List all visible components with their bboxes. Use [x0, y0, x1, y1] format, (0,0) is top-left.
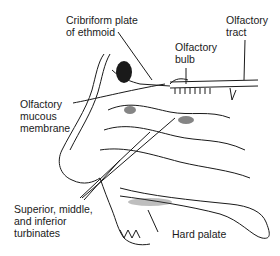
mucous-label-line2: mucous [20, 110, 70, 122]
hard-palate-label: Hard palate [172, 228, 226, 240]
turbinates-label-line3: turbinates [14, 227, 93, 239]
turbinates-label-line2: and inferior [14, 215, 93, 227]
cribriform-label-line1: Cribriform plate [66, 14, 138, 26]
olfactory-mucous-membrane-label: Olfactory mucous membrane [20, 98, 70, 134]
bulb-label-line2: bulb [175, 53, 217, 65]
mucous-label-line1: Olfactory [20, 98, 70, 110]
turbinates-label: Superior, middle, and inferior turbinate… [14, 203, 93, 239]
cribriform-plate-label: Cribriform plate of ethmoid [66, 14, 138, 38]
mucous-label-line3: membrane [20, 122, 70, 134]
tract-label-line2: tract [226, 26, 268, 38]
cribriform-label-line2: of ethmoid [66, 26, 138, 38]
turbinates-label-line1: Superior, middle, [14, 203, 93, 215]
bulb-label-line1: Olfactory [175, 41, 217, 53]
tract-label-line1: Olfactory [226, 14, 268, 26]
olfactory-bulb-label: Olfactory bulb [175, 41, 217, 65]
olfactory-tract-label: Olfactory tract [226, 14, 268, 38]
olfactory-anatomy-diagram: Cribriform plate of ethmoid Olfactory tr… [0, 0, 280, 256]
